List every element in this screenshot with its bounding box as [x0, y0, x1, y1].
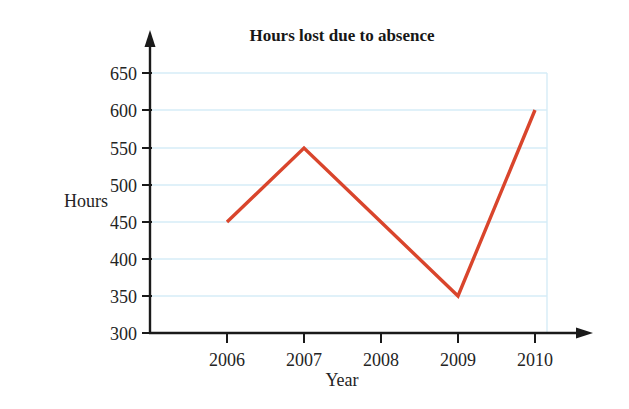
y-tick-label-650: 650 — [110, 64, 137, 84]
chart-title: Hours lost due to absence — [249, 26, 435, 45]
y-tick-label-550: 550 — [110, 139, 137, 159]
y-tick-label-350: 350 — [110, 287, 137, 307]
x-tick-label-2009: 2009 — [440, 350, 476, 370]
x-tick-label-2008: 2008 — [363, 350, 399, 370]
y-tick-label-300: 300 — [110, 324, 137, 344]
y-tick-label-450: 450 — [110, 213, 137, 233]
chart-canvas: 650 600 550 500 450 400 350 300 2006 200… — [0, 0, 629, 409]
y-tick-label-400: 400 — [110, 250, 137, 270]
line-chart: 650 600 550 500 450 400 350 300 2006 200… — [0, 0, 629, 409]
x-tick-label-2010: 2010 — [517, 350, 553, 370]
y-axis-title: Hours — [64, 191, 108, 211]
y-tick-label-600: 600 — [110, 101, 137, 121]
y-tick-label-500: 500 — [110, 176, 137, 196]
x-tick-label-2006: 2006 — [209, 350, 245, 370]
x-axis-title: Year — [325, 370, 358, 390]
x-tick-label-2007: 2007 — [286, 350, 322, 370]
